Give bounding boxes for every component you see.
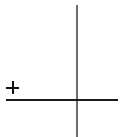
plus-icon: +: [6, 81, 19, 94]
plus-sign-label: +: [6, 81, 7, 82]
horizontal-axis-line: [6, 99, 118, 101]
vertical-axis-line: [76, 5, 78, 137]
